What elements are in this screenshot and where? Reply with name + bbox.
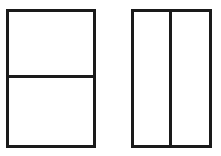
rectangle-horizontally-divided — [6, 9, 96, 148]
rectangle-vertically-divided — [131, 9, 212, 148]
rectangle-cell-left — [134, 12, 172, 145]
rectangle-cell-top — [9, 12, 93, 78]
rectangle-cell-right — [172, 12, 209, 145]
diagram-canvas — [0, 0, 221, 156]
rectangle-cell-bottom — [9, 78, 93, 145]
